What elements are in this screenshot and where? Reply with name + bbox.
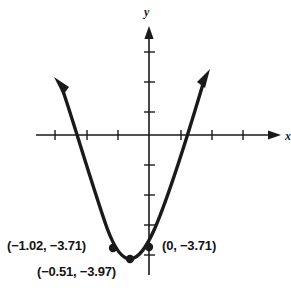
parabola-curve [62,84,203,259]
x-axis-arrow-icon [268,130,281,139]
parabola-graph-figure: y x (−1.02, −3.71) (−0.51, −3.97) (0, −3… [0,0,291,292]
curve-right-arrow-icon [197,69,210,88]
point-vertex [126,255,134,263]
curve-left-arrow-icon [54,77,69,95]
point-left [109,244,117,252]
y-intercept-label: (0, −3.71) [162,239,216,252]
left-point-label: (−1.02, −3.71) [7,239,86,252]
x-axis-label: x [285,130,291,142]
point-y-intercept [145,243,153,251]
y-axis-label: y [144,6,149,18]
vertex-label: (−0.51, −3.97) [37,265,116,278]
y-axis-arrow-icon [144,26,153,39]
